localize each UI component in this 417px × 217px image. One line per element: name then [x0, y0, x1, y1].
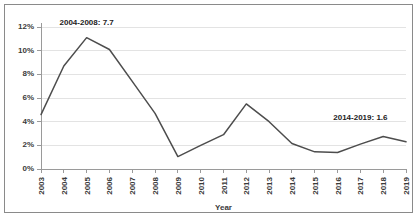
data-series-line: [41, 38, 406, 157]
y-axis-tick-label: 0%: [22, 164, 34, 173]
y-axis-tick-label: 4%: [22, 117, 34, 126]
x-axis-tick-label: 2013: [265, 176, 274, 194]
x-axis-tick-label: 2018: [379, 176, 388, 194]
y-axis-tick-label: 6%: [22, 93, 34, 102]
x-axis-tick-label: 2005: [83, 176, 92, 194]
chart-page: 0%2%4%6%8%10%12%200320042005200620072008…: [0, 0, 417, 217]
x-axis-tick-label: 2015: [311, 176, 320, 194]
x-axis-tick-label: 2007: [128, 176, 137, 194]
x-axis-tick-label: 2008: [151, 176, 160, 194]
x-axis-tick-label: 2009: [174, 176, 183, 194]
x-axis-tick-label: 2003: [37, 176, 46, 194]
chart-border-frame: 0%2%4%6%8%10%12%200320042005200620072008…: [4, 4, 413, 213]
x-axis-tick-label: 2006: [105, 176, 114, 194]
y-axis-tick-label: 2%: [22, 140, 34, 149]
annotation-2014-2019: 2014-2019: 1.6: [333, 113, 388, 122]
x-axis-tick-label: 2011: [220, 176, 229, 194]
x-axis-tick-label: 2012: [242, 176, 251, 194]
line-chart: 0%2%4%6%8%10%12%200320042005200620072008…: [5, 5, 414, 214]
x-axis-tick-label: 2014: [288, 176, 297, 194]
x-axis-tick-label: 2004: [60, 176, 69, 194]
plot-area: 0%2%4%6%8%10%12%200320042005200620072008…: [5, 5, 414, 214]
x-axis-title: Year: [215, 203, 232, 212]
x-axis-tick-label: 2016: [334, 176, 343, 194]
x-axis-tick-label: 2010: [197, 176, 206, 194]
y-axis-tick-label: 8%: [22, 69, 34, 78]
x-axis-tick-label: 2019: [402, 176, 411, 194]
annotation-2004-2008: 2004-2008: 7.7: [59, 18, 114, 27]
y-axis-tick-label: 12%: [18, 22, 34, 31]
x-axis-tick-label: 2017: [356, 176, 365, 194]
y-axis-tick-label: 10%: [18, 46, 34, 55]
